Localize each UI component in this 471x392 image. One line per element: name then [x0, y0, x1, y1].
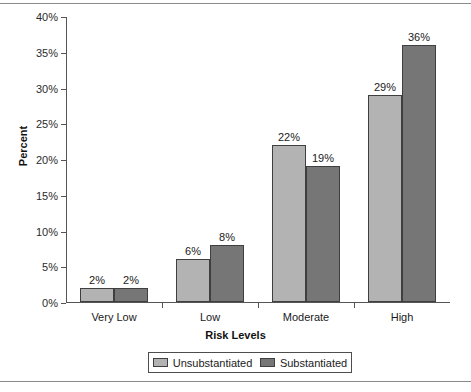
y-axis-line — [66, 17, 67, 303]
y-tick-mark — [61, 89, 66, 90]
bar-unsubstantiated-low — [176, 259, 210, 302]
legend-item-substantiated: Substantiated — [260, 357, 347, 369]
y-tick-label: 30% — [36, 83, 58, 94]
x-tick-mark — [258, 303, 259, 308]
category-label-moderate: Moderate — [258, 311, 354, 323]
y-tick-mark — [61, 267, 66, 268]
legend-label: Unsubstantiated — [173, 357, 253, 369]
bottom-divider — [0, 381, 471, 382]
y-tick-mark — [61, 232, 66, 233]
category-label-high: High — [354, 311, 450, 323]
bar-unsubstantiated-moderate — [272, 145, 306, 302]
x-tick-mark — [354, 303, 355, 308]
y-tick-label: 5% — [42, 262, 58, 273]
y-tick-mark — [61, 160, 66, 161]
chart-page: Percent Risk Levels 0%5%10%15%20%25%30%3… — [0, 0, 471, 392]
y-tick-label: 10% — [36, 226, 58, 237]
bar-unsubstantiated-very-low — [80, 288, 114, 302]
y-tick-label: 35% — [36, 47, 58, 58]
y-tick-label: 0% — [42, 298, 58, 309]
bar-value-label: 22% — [266, 132, 312, 143]
y-tick-mark — [61, 53, 66, 54]
y-axis-title: Percent — [17, 126, 29, 166]
bar-substantiated-low — [210, 245, 244, 302]
y-tick-mark — [61, 124, 66, 125]
category-label-very-low: Very Low — [66, 311, 162, 323]
chart-legend: Unsubstantiated Substantiated — [148, 352, 352, 373]
top-divider — [0, 3, 471, 4]
plot-area: 0%5%10%15%20%25%30%35%40% 2%2%6%8%22%19%… — [66, 17, 450, 303]
y-tick-label: 15% — [36, 190, 58, 201]
bar-unsubstantiated-high — [368, 95, 402, 302]
bar-substantiated-high — [402, 45, 436, 302]
x-tick-mark — [162, 303, 163, 308]
y-tick-label: 40% — [36, 12, 58, 23]
bar-value-label: 2% — [108, 275, 154, 286]
bar-value-label: 19% — [300, 153, 346, 164]
bar-value-label: 36% — [396, 32, 442, 43]
bar-value-label: 8% — [204, 232, 250, 243]
legend-label: Substantiated — [280, 357, 347, 369]
category-label-low: Low — [162, 311, 258, 323]
y-tick-mark — [61, 196, 66, 197]
y-tick-mark — [61, 17, 66, 18]
y-tick-mark — [61, 303, 66, 304]
bar-substantiated-moderate — [306, 166, 340, 302]
x-axis-title: Risk Levels — [0, 329, 471, 341]
bar-substantiated-very-low — [114, 288, 148, 302]
y-tick-label: 25% — [36, 119, 58, 130]
legend-item-unsubstantiated: Unsubstantiated — [153, 357, 253, 369]
y-tick-label: 20% — [36, 155, 58, 166]
legend-swatch-icon — [153, 358, 168, 367]
legend-swatch-icon — [260, 358, 275, 367]
